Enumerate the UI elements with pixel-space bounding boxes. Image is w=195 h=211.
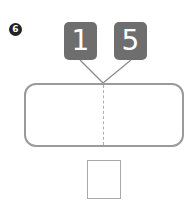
whole-bar — [24, 83, 184, 147]
bar-divider — [103, 85, 104, 145]
answer-box[interactable] — [87, 160, 121, 199]
